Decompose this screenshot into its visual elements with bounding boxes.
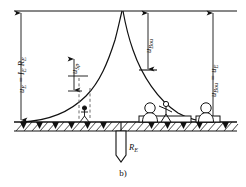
label-touch-voltage-remote: uBou = uE <box>209 65 218 97</box>
label-earth-potential-rise: uE = IE RE <box>17 57 26 93</box>
label-step-voltage: uSp <box>70 64 79 74</box>
label-touch-voltage-text: uBou <box>143 39 153 53</box>
label-earth-resistance-text: RE <box>129 142 138 152</box>
label-touch-voltage: uBou <box>144 39 153 53</box>
person-touching-structure <box>143 103 158 122</box>
label-step-voltage-text: uSp <box>69 64 79 74</box>
earthing-potential-diagram: uE = IE RE uSp uBou uBou = uE RE b) <box>0 0 246 187</box>
person-remote <box>199 103 214 122</box>
stick-figure-step-voltage <box>80 106 89 122</box>
figure-caption: b) <box>0 168 246 178</box>
earth-electrode-rod <box>116 122 126 162</box>
figure-caption-text: b) <box>119 168 127 178</box>
label-touch-voltage-remote-text: uBou = uE <box>208 65 218 97</box>
label-earth-potential-rise-text: uE = IE RE <box>16 57 26 93</box>
label-earth-resistance: RE <box>129 143 138 152</box>
soil-hatching <box>16 122 238 131</box>
